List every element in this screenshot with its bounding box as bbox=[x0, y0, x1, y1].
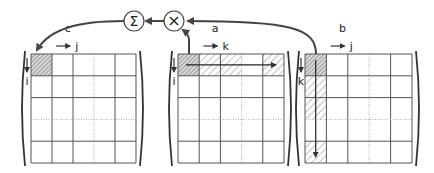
left-paren bbox=[296, 51, 299, 166]
sum-operator: Σ bbox=[124, 11, 144, 31]
row-index-label: i bbox=[25, 75, 28, 88]
right-paren bbox=[140, 51, 143, 166]
col-index-label: j bbox=[74, 40, 78, 53]
col-index-label: k bbox=[222, 40, 229, 53]
arrow-sum-to-c bbox=[37, 21, 124, 50]
left-paren bbox=[169, 51, 172, 166]
sum-symbol: Σ bbox=[130, 13, 139, 29]
col-index-label: j bbox=[349, 40, 353, 53]
matmul-diagram: cjiakibjk Σ × bbox=[0, 0, 434, 173]
multiply-operator: × bbox=[164, 11, 184, 31]
matrix-name-label: a bbox=[212, 22, 219, 35]
arrow-b-to-multiply bbox=[188, 21, 316, 54]
row-index-label: k bbox=[298, 75, 305, 88]
matrix-c: cji bbox=[22, 22, 143, 166]
matrix-a: aki bbox=[169, 22, 291, 166]
active-cell bbox=[31, 54, 52, 76]
left-paren bbox=[22, 51, 25, 166]
right-paren bbox=[416, 51, 419, 166]
right-paren bbox=[288, 51, 291, 166]
matrix-name-label: b bbox=[339, 22, 346, 35]
row-index-label: i bbox=[172, 75, 175, 88]
arrow-a-to-multiply bbox=[183, 30, 189, 54]
multiply-symbol: × bbox=[167, 11, 180, 30]
